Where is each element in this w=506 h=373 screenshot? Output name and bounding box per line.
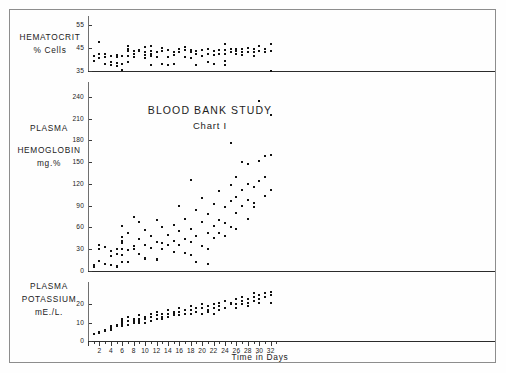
data-point [213, 307, 215, 309]
x-tick [151, 342, 152, 344]
data-point [235, 228, 237, 230]
data-point [121, 240, 123, 242]
data-point [264, 48, 266, 50]
data-point [184, 313, 186, 315]
data-point [184, 49, 186, 51]
hemoglobin-y-tick-label: 240 [58, 93, 84, 100]
data-point [224, 235, 226, 237]
data-point [138, 238, 140, 240]
data-point [270, 154, 272, 156]
data-point [264, 51, 266, 53]
x-tick [236, 342, 237, 346]
data-point [116, 56, 118, 58]
data-point [190, 305, 192, 307]
data-point [201, 303, 203, 305]
data-point [127, 324, 129, 326]
data-point [161, 47, 163, 49]
data-point [121, 325, 123, 327]
data-point [144, 54, 146, 56]
data-point [178, 311, 180, 313]
data-point [178, 205, 180, 207]
data-point [235, 53, 237, 55]
data-point [213, 313, 215, 315]
x-tick [139, 342, 140, 344]
data-point [207, 48, 209, 50]
data-point [201, 313, 203, 315]
data-point [230, 142, 232, 144]
data-point [184, 218, 186, 220]
data-point [150, 313, 152, 315]
data-point [127, 50, 129, 52]
data-point [167, 56, 169, 58]
data-point [104, 246, 106, 248]
data-point [133, 245, 135, 247]
data-point [224, 222, 226, 224]
data-point [264, 176, 266, 178]
data-point [144, 46, 146, 48]
data-point [110, 61, 112, 63]
data-point [121, 254, 123, 256]
data-point [167, 244, 169, 246]
data-point [224, 206, 226, 208]
data-point [167, 234, 169, 236]
x-tick [111, 342, 112, 346]
hemoglobin-y-axis [88, 82, 89, 272]
data-point [258, 45, 260, 47]
data-point [173, 251, 175, 253]
data-point [127, 61, 129, 63]
data-point [224, 43, 226, 45]
data-point [258, 180, 260, 182]
data-point [110, 250, 112, 252]
data-point [178, 51, 180, 53]
data-point [133, 53, 135, 55]
data-point [270, 291, 272, 293]
data-point [195, 311, 197, 313]
data-point [184, 56, 186, 58]
x-tick [276, 342, 277, 344]
data-point [110, 64, 112, 66]
hemoglobin-label-line2: HEMOGLOBIN [6, 144, 92, 157]
data-point [270, 50, 272, 52]
data-point [156, 219, 158, 221]
data-point [207, 263, 209, 265]
data-point [127, 55, 129, 57]
data-point [207, 311, 209, 313]
data-point [144, 318, 146, 320]
data-point [184, 252, 186, 254]
data-point [98, 332, 100, 334]
data-point [258, 160, 260, 162]
data-point [207, 53, 209, 55]
data-point [127, 320, 129, 322]
data-point [247, 305, 249, 307]
data-point [93, 55, 95, 57]
data-point [213, 225, 215, 227]
x-tick [271, 342, 272, 346]
data-point [230, 51, 232, 53]
data-point [270, 43, 272, 45]
x-tick [225, 342, 226, 346]
data-point [213, 54, 215, 56]
data-point [98, 41, 100, 43]
data-point [235, 298, 237, 300]
hemoglobin-y-tick [89, 249, 92, 250]
data-point [195, 53, 197, 55]
potassium-y-tick-label: 10 [58, 319, 84, 326]
hematocrit-y-tick-label: 55 [58, 21, 84, 28]
data-point [241, 296, 243, 298]
data-point [93, 333, 95, 335]
data-point [138, 50, 140, 52]
data-point [190, 179, 192, 181]
data-point [156, 314, 158, 316]
data-point [247, 218, 249, 220]
data-point [230, 200, 232, 202]
data-point [253, 292, 255, 294]
data-point [213, 63, 215, 65]
data-point [150, 316, 152, 318]
data-point [121, 242, 123, 244]
data-point [98, 57, 100, 59]
data-point [201, 197, 203, 199]
data-point [213, 303, 215, 305]
data-point [121, 248, 123, 250]
data-point [253, 55, 255, 57]
data-point [247, 163, 249, 165]
